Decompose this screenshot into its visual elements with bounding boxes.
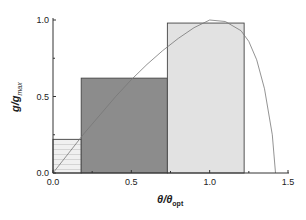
- bars: [53, 23, 244, 173]
- y-axis-label: g/gmax: [9, 82, 23, 113]
- y-tick-label: 0.0: [36, 168, 49, 178]
- x-tick-label: 1.0: [203, 177, 216, 187]
- x-axis-label: θ/θopt: [157, 193, 184, 208]
- y-tick-label: 1.0: [36, 15, 49, 25]
- bar-3: [167, 23, 244, 173]
- bar-2: [81, 78, 167, 173]
- x-tick-label: 0.5: [125, 177, 138, 187]
- x-tick-label: 1.5: [282, 177, 295, 187]
- chart: 0.00.51.01.50.00.51.0 θ/θopt g/gmax: [0, 0, 306, 220]
- x-tick-label: 0.0: [47, 177, 60, 187]
- y-tick-label: 0.5: [36, 92, 49, 102]
